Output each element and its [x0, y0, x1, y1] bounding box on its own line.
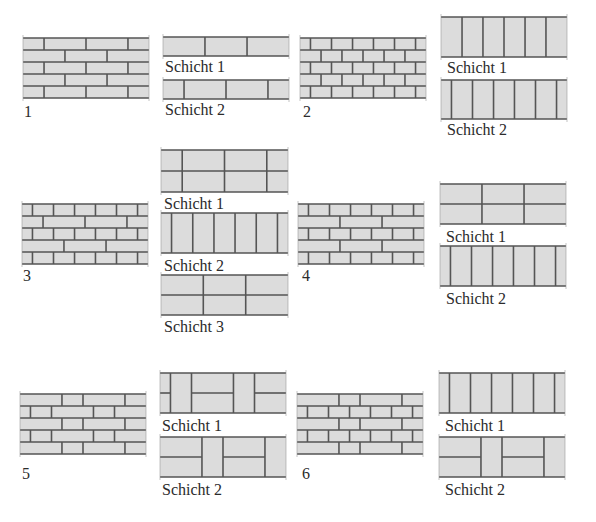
pattern-number-6: 6	[302, 466, 310, 482]
pattern-number-2: 2	[303, 104, 311, 120]
layer-label-3-1: Schicht 1	[164, 196, 224, 212]
layer-plan-3-1	[161, 150, 288, 192]
layer-label-5-1: Schicht 1	[162, 418, 222, 434]
wall-elevation-4	[298, 204, 424, 264]
layer-plan-1-2	[163, 80, 289, 99]
pattern-number-3: 3	[23, 268, 31, 284]
layer-label-4-2: Schicht 2	[446, 291, 506, 307]
wall-elevation-5	[20, 394, 146, 454]
pattern-number-4: 4	[302, 268, 310, 284]
layer-plan-2-2	[441, 80, 567, 119]
layer-label-3-2: Schicht 2	[164, 258, 224, 274]
pattern-number-5: 5	[22, 466, 30, 482]
layer-plan-6-2	[439, 437, 565, 477]
layer-plan-1-1	[163, 37, 289, 56]
layer-label-4-1: Schicht 1	[446, 229, 506, 245]
layer-label-5-2: Schicht 2	[162, 482, 222, 498]
layer-label-2-2: Schicht 2	[447, 122, 507, 138]
layer-plan-5-2	[160, 437, 286, 477]
wall-elevation-2	[300, 38, 426, 98]
wall-elevation-6	[297, 394, 423, 454]
layer-plan-6-1	[439, 373, 565, 413]
layer-plan-4-2	[440, 246, 566, 286]
layer-plan-3-2	[161, 213, 288, 253]
layer-plan-3-3	[161, 275, 288, 315]
layer-label-1-1: Schicht 1	[165, 59, 225, 75]
layer-plan-4-1	[440, 184, 566, 224]
layer-label-3-3: Schicht 3	[164, 319, 224, 335]
layer-label-2-1: Schicht 1	[447, 60, 507, 76]
pattern-number-1: 1	[24, 104, 32, 120]
wall-elevation-3	[22, 204, 148, 264]
wall-elevation-1	[23, 38, 149, 98]
layer-label-6-1: Schicht 1	[445, 418, 505, 434]
layer-plan-2-1	[441, 17, 567, 57]
layer-label-1-2: Schicht 2	[165, 102, 225, 118]
layer-plan-5-1	[160, 373, 286, 413]
layer-label-6-2: Schicht 2	[445, 482, 505, 498]
